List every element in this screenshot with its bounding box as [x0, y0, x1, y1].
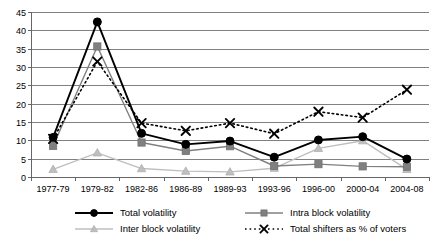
y-axis-tick-label: 10 [16, 136, 26, 146]
legend-label: Total shifters as % of voters [290, 223, 406, 234]
series-line [53, 62, 407, 139]
x-axis-tick-label: 2000-04 [346, 184, 379, 194]
y-axis-tick-label: 25 [16, 81, 26, 91]
data-point-marker-x [93, 57, 101, 65]
legend-label: Total volatility [120, 207, 177, 218]
legend-item: Intra block volatility [245, 207, 371, 218]
y-axis-tick-label: 5 [21, 155, 26, 165]
data-point-marker-square [94, 43, 101, 50]
x-axis-tick-label: 1977-79 [37, 184, 70, 194]
data-point-marker-x [260, 225, 267, 232]
data-point-marker-circle [182, 140, 190, 148]
x-axis-tick-label: 1996-00 [302, 184, 335, 194]
y-axis-tick-label: 30 [16, 63, 26, 73]
line-chart: 0510152025303540451977-791979-821982-861… [0, 0, 436, 242]
x-axis-tick-label: 1989-93 [213, 184, 246, 194]
data-point-marker-triangle [93, 149, 101, 156]
data-point-marker-square [403, 163, 410, 170]
legend-item: Total volatility [75, 207, 177, 218]
chart-container: 0510152025303540451977-791979-821982-861… [0, 0, 436, 242]
data-point-marker-circle [314, 136, 322, 144]
data-point-marker-x [403, 86, 411, 94]
data-point-marker-square [138, 139, 145, 146]
data-point-marker-circle [403, 155, 411, 163]
y-axis-tick-label: 20 [16, 100, 26, 110]
data-point-marker-square [261, 210, 267, 216]
series-total-shifters-as-of-voters [49, 57, 411, 143]
legend-label: Inter block volatility [120, 223, 201, 234]
legend-item: Inter block volatility [75, 223, 201, 234]
x-axis-tick-label: 1979-82 [81, 184, 114, 194]
data-point-marker-circle [226, 137, 234, 145]
data-point-marker-circle [49, 133, 57, 141]
y-axis-tick-label: 40 [16, 26, 26, 36]
x-axis-tick-label: 1993-96 [258, 184, 291, 194]
y-axis-tick-label: 45 [16, 8, 26, 18]
y-axis-tick-label: 0 [21, 173, 26, 183]
data-point-marker-circle [91, 210, 98, 217]
data-point-marker-circle [270, 153, 278, 161]
x-axis-tick-label: 1982-86 [125, 184, 158, 194]
series-intra-block-volatility [50, 43, 411, 170]
data-point-marker-circle [138, 129, 146, 137]
y-axis-tick-label: 15 [16, 118, 26, 128]
data-point-marker-square [271, 162, 278, 169]
legend-label: Intra block volatility [290, 207, 371, 218]
y-axis-tick-label: 35 [16, 45, 26, 55]
data-point-marker-circle [359, 133, 367, 141]
x-axis-tick-label: 2004-08 [390, 184, 423, 194]
data-point-marker-square [315, 161, 322, 168]
data-point-marker-square [359, 163, 366, 170]
data-point-marker-x [270, 130, 278, 138]
x-axis-tick-label: 1986-89 [169, 184, 202, 194]
legend-item: Total shifters as % of voters [245, 223, 406, 234]
data-point-marker-circle [93, 18, 101, 26]
data-point-marker-square [50, 142, 57, 149]
chart-legend: Total volatilityInter block volatilityIn… [75, 207, 406, 234]
data-point-marker-x [314, 108, 322, 116]
